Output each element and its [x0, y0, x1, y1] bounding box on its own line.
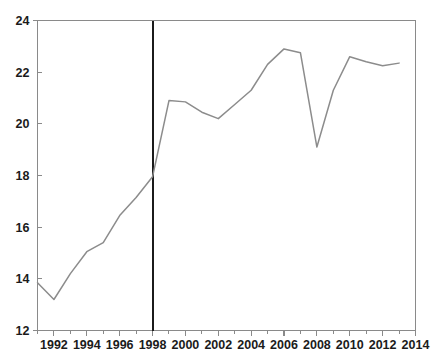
y-tick-label-20: 20 [16, 117, 30, 131]
x-tick-label-2004: 2004 [237, 338, 265, 352]
x-tick-label-2012: 2012 [369, 338, 397, 352]
x-tick-label-2006: 2006 [270, 338, 298, 352]
x-tick-label-1994: 1994 [73, 338, 101, 352]
x-tick-label-1996: 1996 [106, 338, 134, 352]
x-tick-label-2014: 2014 [402, 338, 430, 352]
x-tick-label-2000: 2000 [172, 338, 200, 352]
y-tick-label-16: 16 [16, 221, 30, 235]
y-tick-label-24: 24 [16, 14, 30, 28]
y-axis-tick-labels: 12141618202224 [16, 14, 30, 338]
x-axis-ticks [38, 331, 416, 336]
x-axis-tick-labels: 1992199419961998200020022004200620082010… [40, 338, 429, 352]
y-tick-label-14: 14 [16, 272, 30, 286]
x-tick-label-2010: 2010 [336, 338, 364, 352]
y-tick-label-18: 18 [16, 169, 30, 183]
data-line-series-1 [38, 49, 400, 300]
x-tick-label-2002: 2002 [204, 338, 232, 352]
plot-axis-frame [38, 21, 416, 331]
y-tick-label-22: 22 [16, 66, 30, 80]
chart-container: 12141618202224 1992199419961998200020022… [0, 0, 441, 363]
line-chart-plot: 12141618202224 1992199419961998200020022… [0, 0, 441, 363]
data-series-lines [38, 49, 400, 300]
x-tick-label-1998: 1998 [139, 338, 167, 352]
x-tick-label-1992: 1992 [40, 338, 68, 352]
x-tick-label-2008: 2008 [303, 338, 331, 352]
y-tick-label-12: 12 [16, 324, 30, 338]
